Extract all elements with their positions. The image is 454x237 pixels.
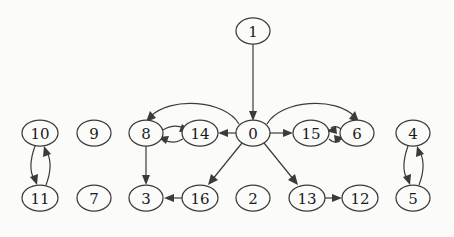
graph-node-2[interactable]: 2 (236, 185, 270, 211)
graph-node-1[interactable]: 1 (236, 18, 270, 44)
node-label-6: 6 (352, 125, 362, 143)
edge-10-to-11 (30, 146, 38, 185)
graph-diagram-canvas: 1 10 9 8 14 0 (0, 0, 454, 237)
graph-node-0[interactable]: 0 (236, 120, 270, 146)
node-label-4: 4 (408, 125, 418, 143)
graph-node-9[interactable]: 9 (77, 120, 111, 146)
edge-0-to-14 (218, 129, 236, 137)
graph-node-8[interactable]: 8 (129, 120, 163, 146)
graph-node-7[interactable]: 7 (77, 185, 111, 211)
edge-1-to-0 (249, 44, 257, 121)
edge-0-to-13 (264, 143, 298, 185)
graph-node-10[interactable]: 10 (22, 120, 58, 146)
node-label-7: 7 (89, 190, 99, 208)
graph-node-4[interactable]: 4 (396, 120, 430, 146)
graph-node-11[interactable]: 11 (22, 185, 58, 211)
graph-node-16[interactable]: 16 (182, 185, 218, 211)
graph-svg: 1 10 9 8 14 0 (0, 0, 454, 237)
node-label-16: 16 (190, 190, 209, 208)
node-label-10: 10 (30, 125, 49, 143)
node-label-15: 15 (301, 125, 320, 143)
edge-0-to-16 (208, 143, 242, 185)
graph-node-15[interactable]: 15 (293, 120, 329, 146)
edge-4-to-5 (403, 146, 411, 185)
node-label-11: 11 (30, 190, 49, 208)
node-label-3: 3 (141, 190, 151, 208)
edge-16-to-3 (164, 194, 182, 202)
node-label-8: 8 (141, 125, 151, 143)
graph-node-6[interactable]: 6 (340, 120, 374, 146)
node-label-14: 14 (190, 125, 209, 143)
node-label-0: 0 (248, 125, 258, 143)
node-label-1: 1 (248, 23, 258, 41)
graph-node-5[interactable]: 5 (396, 185, 430, 211)
edge-11-to-10 (43, 146, 51, 185)
node-label-5: 5 (408, 190, 418, 208)
nodes-layer: 1 10 9 8 14 0 (22, 18, 430, 211)
node-label-2: 2 (248, 190, 258, 208)
graph-node-14[interactable]: 14 (182, 120, 218, 146)
node-label-12: 12 (350, 190, 369, 208)
graph-node-3[interactable]: 3 (129, 185, 163, 211)
node-label-13: 13 (297, 190, 316, 208)
edge-5-to-4 (416, 146, 424, 185)
graph-node-13[interactable]: 13 (289, 185, 325, 211)
edge-0-to-15 (270, 129, 293, 137)
edge-13-to-12 (325, 194, 342, 202)
node-label-9: 9 (89, 125, 99, 143)
graph-node-12[interactable]: 12 (342, 185, 378, 211)
edge-8-to-3 (142, 146, 150, 185)
